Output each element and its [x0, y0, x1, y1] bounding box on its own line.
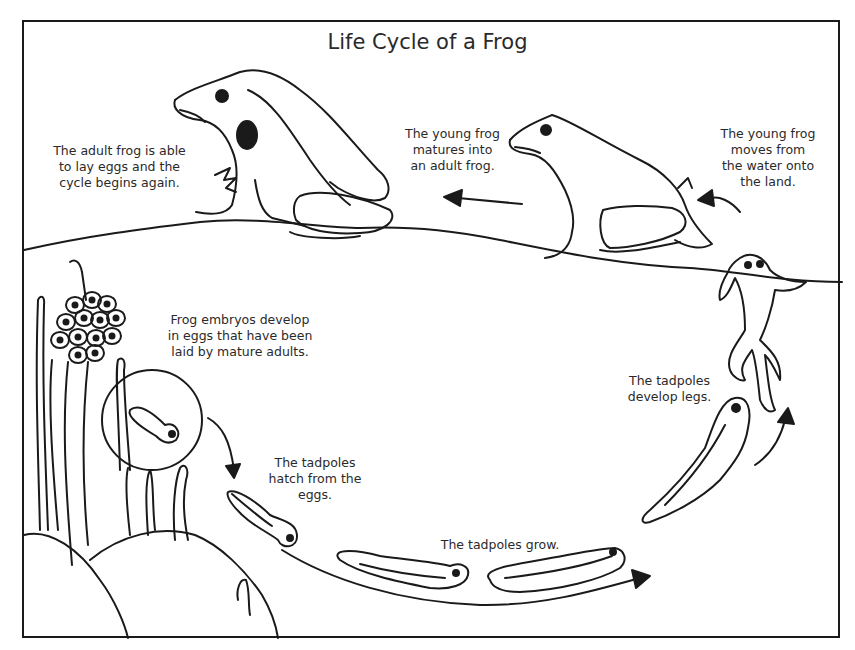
arrow-matures [458, 198, 522, 204]
growing-tadpole-2-icon [488, 548, 625, 592]
egg-cluster-icon [51, 260, 125, 363]
arrow-embryo-to-hatch [208, 418, 234, 470]
rocks-icon [24, 531, 278, 638]
tadpole-with-legs-icon [643, 398, 750, 523]
label-young-frog-matures: The young frog matures into an adult fro… [385, 126, 520, 174]
adult-frog-icon [174, 70, 392, 238]
label-frog-embryos: Frog embryos develop in eggs that have b… [142, 312, 338, 360]
froglet-icon [719, 255, 806, 412]
label-tadpoles-hatch: The tadpoles hatch from the eggs. [255, 455, 375, 503]
arrow-legs [755, 420, 785, 465]
label-tadpoles-grow: The tadpoles grow. [425, 537, 575, 553]
label-young-frog-moves: The young frog moves from the water onto… [693, 126, 843, 190]
label-tadpoles-legs: The tadpoles develop legs. [612, 373, 727, 405]
growing-tadpole-1-icon [337, 551, 468, 588]
young-frog-icon [510, 115, 712, 258]
ground-line [24, 220, 842, 282]
arrow-grow [282, 550, 640, 605]
arrow-to-land [712, 198, 740, 212]
diagram-title: Life Cycle of a Frog [0, 30, 855, 54]
label-adult-frog: The adult frog is able to lay eggs and t… [32, 143, 207, 191]
